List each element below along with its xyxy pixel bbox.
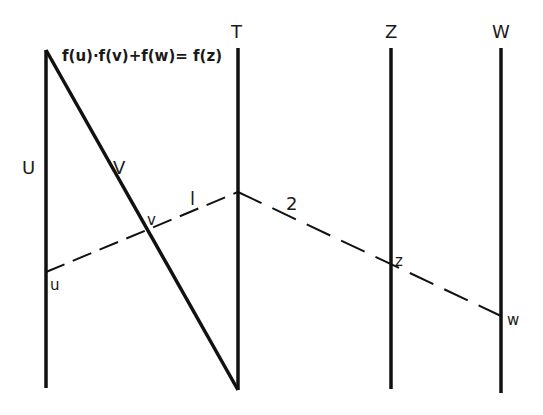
- point-u-label: u: [50, 276, 60, 294]
- scale-z-label: Z: [385, 21, 397, 42]
- isopleth-2-line: [238, 192, 501, 316]
- scale-v-label: V: [113, 157, 126, 178]
- point-z-label: z: [395, 252, 403, 270]
- isopleth-1-label: l: [190, 188, 195, 209]
- point-v-label: v: [147, 211, 156, 229]
- scale-u-label: U: [22, 157, 35, 178]
- scale-w-label: W: [492, 21, 510, 42]
- point-w-label: w: [507, 311, 519, 329]
- isopleth-2-label: 2: [286, 193, 297, 214]
- scale-t-label: T: [230, 21, 243, 42]
- nomogram: f(u)·f(v)+f(w)= f(z) U V T Z W u v z w l…: [0, 0, 543, 415]
- scale-v-line: [46, 50, 238, 390]
- formula-label: f(u)·f(v)+f(w)= f(z): [62, 47, 222, 65]
- isopleth-1-line: [46, 192, 238, 272]
